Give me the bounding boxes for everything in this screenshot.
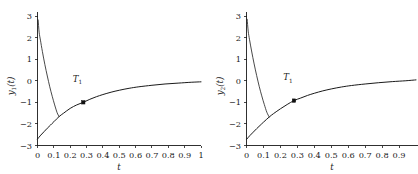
x-tick-label: 0.6 — [342, 150, 355, 160]
x-tick-label: 0.5 — [113, 150, 126, 160]
x-tick-label: 0.2 — [64, 150, 77, 160]
y-ticklabels-left: −3−2−10123 — [20, 11, 32, 151]
plot-panel-right: −3−2−10123 00.10.20.30.40.50.60.70.80.9 … — [209, 0, 418, 174]
y-tick-label: 1 — [236, 54, 241, 64]
x-tick-label: 0.8 — [162, 150, 175, 160]
axes-left — [38, 12, 202, 146]
annotation-marker — [82, 101, 85, 104]
x-tick-label: 0.1 — [257, 150, 270, 160]
x-tick-label: 0 — [35, 150, 40, 160]
x-tick-label: 0.1 — [47, 150, 60, 160]
y-tick-label: −1 — [20, 97, 32, 107]
annotation-label-T1: T1 — [73, 74, 82, 85]
x-tick-label: 0.6 — [129, 150, 142, 160]
y-tick-label: −3 — [20, 141, 32, 151]
y-tick-label: 1 — [27, 54, 32, 64]
annotation-marker — [292, 99, 295, 102]
relaxation-branch-curve — [247, 80, 417, 140]
annotation-label-T1: T1 — [283, 72, 292, 83]
y-tick-label: 3 — [27, 11, 32, 21]
spike-branch-curve — [247, 19, 269, 117]
spike-branch-curve — [38, 20, 59, 117]
x-ticklabels-right: 00.10.20.30.40.50.60.70.80.9 — [244, 150, 406, 160]
x-tick-label: 0 — [244, 150, 249, 160]
y-tick-label: 3 — [236, 11, 241, 21]
y-tick-label: 0 — [27, 76, 32, 86]
x-ticklabels-left: 00.10.20.30.40.50.60.70.80.91 — [35, 150, 204, 160]
x-tick-label: 0.2 — [274, 150, 287, 160]
x-tick-label: 0.3 — [291, 150, 304, 160]
plot-svg-right: −3−2−10123 00.10.20.30.40.50.60.70.80.9 … — [209, 0, 418, 174]
x-tick-label: 0.8 — [376, 150, 389, 160]
plot-svg-left: −3−2−10123 00.10.20.30.40.50.60.70.80.91… — [0, 0, 209, 174]
y-tick-label: 2 — [236, 33, 241, 43]
y-tick-label: −2 — [20, 119, 32, 129]
x-tick-label: 0.7 — [145, 150, 158, 160]
y-tick-label: 0 — [236, 76, 241, 86]
x-axis-label: t — [330, 162, 334, 172]
two-panel-figure: −3−2−10123 00.10.20.30.40.50.60.70.80.91… — [0, 0, 418, 174]
x-tick-label: 0.5 — [325, 150, 338, 160]
y-axis-label: y2(t) — [215, 77, 226, 97]
x-tick-label: 0.4 — [308, 150, 321, 160]
relaxation-branch-curve — [38, 82, 202, 139]
y-tick-label: −2 — [229, 119, 241, 129]
x-tick-label: 0.9 — [178, 150, 191, 160]
axes-right — [247, 12, 418, 146]
plot-panel-left: −3−2−10123 00.10.20.30.40.50.60.70.80.91… — [0, 0, 209, 174]
x-axis-label: t — [117, 162, 121, 172]
x-tick-label: 0.4 — [96, 150, 109, 160]
x-tick-label: 0.3 — [80, 150, 93, 160]
x-tick-label: 0.7 — [359, 150, 372, 160]
x-tick-label: 1 — [198, 150, 203, 160]
y-ticklabels-right: −3−2−10123 — [229, 11, 241, 151]
x-tick-label: 0.9 — [393, 150, 406, 160]
y-tick-label: 2 — [27, 33, 32, 43]
y-tick-label: −3 — [229, 141, 241, 151]
y-tick-label: −1 — [229, 97, 241, 107]
y-axis-label: y1(t) — [6, 77, 17, 97]
